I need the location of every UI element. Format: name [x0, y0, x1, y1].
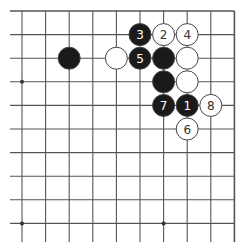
- white-stone: 2: [153, 24, 175, 46]
- black-stone: [58, 47, 80, 69]
- move-number: 5: [136, 52, 144, 66]
- white-stone: 8: [200, 94, 222, 116]
- black-stone: [153, 71, 175, 93]
- star-point: [162, 221, 166, 225]
- black-stone: 3: [129, 24, 151, 46]
- move-number: 6: [183, 123, 191, 137]
- black-stone: 1: [176, 94, 198, 116]
- star-point: [20, 221, 24, 225]
- move-number: 7: [160, 99, 168, 113]
- move-number: 1: [183, 99, 191, 113]
- black-stone: 5: [129, 47, 151, 69]
- move-number: 2: [160, 28, 168, 42]
- white-stone: [176, 47, 198, 69]
- white-stone: [176, 71, 198, 93]
- go-board-diagram: 32457186: [0, 0, 241, 248]
- black-stone: [153, 47, 175, 69]
- white-stone: 4: [176, 24, 198, 46]
- white-stone: [105, 47, 127, 69]
- move-number: 8: [207, 99, 215, 113]
- move-number: 4: [183, 28, 191, 42]
- black-stone: 7: [153, 94, 175, 116]
- star-point: [20, 80, 24, 84]
- board-grid: [10, 11, 234, 242]
- move-number: 3: [136, 28, 144, 42]
- white-stone: 6: [176, 118, 198, 140]
